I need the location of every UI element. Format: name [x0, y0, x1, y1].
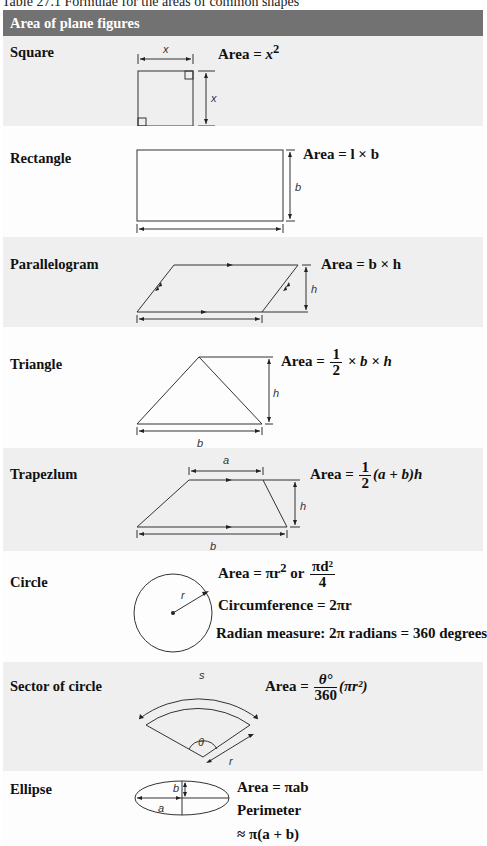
- svg-text:r: r: [229, 755, 234, 767]
- ellipse-perimeter-label: Perimeter: [237, 802, 301, 819]
- square-formula: Area = x2: [218, 42, 279, 63]
- ellipse-area-formula: Area = πab: [237, 779, 308, 796]
- circle-area-formula: Area = πr2 or πd²4: [218, 559, 337, 590]
- circle-circumference: Circumference = 2πr: [218, 597, 352, 614]
- svg-text:h: h: [273, 387, 279, 399]
- circle-radian-measure: Radian measure: 2π radians = 360 degrees: [216, 625, 487, 642]
- sector-diagram: s θ r: [3, 662, 483, 771]
- ellipse-perimeter-value: ≈ π(a + b): [237, 826, 299, 843]
- rectangle-formula: Area = l × b: [303, 146, 379, 163]
- svg-text:h: h: [300, 500, 306, 512]
- sector-formula: Area = θ°360(πr²): [265, 672, 367, 703]
- table-caption: Table 27.1 Formulae for the areas of com…: [2, 0, 299, 10]
- svg-text:x: x: [162, 43, 169, 55]
- table-header: Area of plane figures: [3, 10, 483, 36]
- triangle-diagram: h b: [3, 327, 483, 448]
- rectangle-diagram: b l: [3, 126, 483, 237]
- row-square: Square x x Area = x2: [3, 36, 483, 126]
- svg-text:a: a: [223, 454, 229, 466]
- svg-text:b: b: [295, 181, 301, 193]
- triangle-formula: Area = 12 × b × h: [281, 347, 392, 378]
- row-circle: Circle r Area = πr2 or πd²4 Circumferenc…: [3, 551, 483, 662]
- parallelogram-diagram: h b: [3, 237, 483, 327]
- row-triangle: Triangle h b Area = 12 × b × h: [3, 327, 483, 448]
- row-rectangle: Rectangle b l Area = l × b: [3, 126, 483, 237]
- svg-text:θ: θ: [198, 736, 204, 748]
- svg-text:r: r: [181, 589, 186, 601]
- row-ellipse: Ellipse b a Area = πab Perimeter ≈ π(a +…: [3, 771, 483, 846]
- svg-text:b: b: [173, 782, 179, 794]
- trapezium-formula: Area = 12(a + b)h: [310, 460, 422, 491]
- svg-text:x: x: [210, 92, 217, 104]
- row-sector: Sector of circle s θ r Area = θ°360(πr²): [3, 662, 483, 771]
- row-trapezium: Trapezlum a h b Area = 12(a + b)h: [3, 448, 483, 551]
- svg-text:s: s: [199, 669, 205, 681]
- parallelogram-formula: Area = b × h: [321, 256, 401, 273]
- svg-text:a: a: [158, 802, 164, 814]
- svg-text:h: h: [311, 283, 317, 295]
- row-parallelogram: Parallelogram h b Area = b × h: [3, 237, 483, 327]
